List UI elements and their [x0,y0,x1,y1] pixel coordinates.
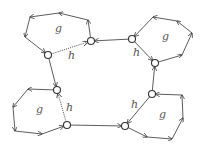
node-D [152,60,159,67]
link-edge [49,58,56,86]
cycle-edge-top-left [25,37,45,53]
cycle-edge-bottom-right [182,95,183,118]
link-label: h [133,46,140,59]
node-F [122,123,129,130]
link-edge [58,93,66,121]
node-H [54,87,61,94]
link-edge [152,66,154,90]
cycle-edge-bottom-right [147,137,172,139]
link-edge [70,125,121,126]
cycle-edge-bottom-left [42,126,64,134]
cycle-edge-bottom-left [13,107,15,131]
node-A [45,52,52,59]
cycle-label-bottom-left: g [36,103,43,116]
link-label: h [131,98,138,111]
cycle-label-bottom-right: g [159,108,166,121]
cycle-label-top-right: g [162,30,169,43]
cycle-edge-top-right [182,33,192,55]
cycle-edge-top-right [134,17,153,36]
cycle-edge-bottom-left [28,89,54,90]
node-C [129,36,136,43]
cycle-edge-top-right [153,17,177,21]
cycle-edge-top-left [88,20,91,38]
labels-layer: gggghhhh [36,22,169,121]
cycle-edge-top-left [30,13,59,17]
cycle-edge-bottom-right [128,128,147,137]
link-label: h [68,49,75,62]
cycle-edge-top-left [25,17,30,37]
node-B [88,38,95,45]
cycle-edge-top-right [158,55,182,62]
link-edge [94,39,128,41]
cycle-edge-bottom-left [13,89,28,107]
cycle-edge-bottom-right [172,118,183,139]
link-label: h [66,101,73,114]
cycle-edge-top-left [59,13,88,20]
graph-diagram: gggghhhh [0,0,204,150]
node-E [149,91,156,98]
cycle-edge-bottom-left [15,131,42,134]
node-G [64,122,71,129]
cycle-edge-bottom-right [155,94,182,95]
cycle-edge-top-right [177,21,192,33]
nodes-layer [45,36,159,130]
cycle-label-top-left: g [55,22,62,35]
